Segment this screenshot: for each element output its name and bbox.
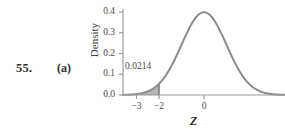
- chart-canvas: [78, 0, 285, 134]
- y-tick-label: 0.0: [89, 89, 115, 99]
- x-axis-title: Z: [190, 114, 197, 129]
- y-tick-label: 0.1: [89, 68, 115, 78]
- problem-part-label: (a): [57, 61, 71, 76]
- x-tick-label: −3: [127, 101, 147, 111]
- x-tick-label: −2: [149, 101, 169, 111]
- y-tick-label: 0.2: [89, 48, 115, 58]
- density-curve: [123, 12, 285, 95]
- shaded-area-value-label: 0.0214: [125, 61, 151, 71]
- y-tick-label: 0.3: [89, 27, 115, 37]
- problem-number: 55.: [16, 61, 32, 76]
- y-tick-label: 0.4: [89, 6, 115, 16]
- figure-root: 55. (a) Density Z 0.0214 0.00.10.20.30.4…: [0, 0, 285, 134]
- y-axis-title: Density: [88, 10, 100, 70]
- x-tick-label: 0: [194, 101, 214, 111]
- normal-density-chart: Density Z 0.0214 0.00.10.20.30.4 −3−20: [78, 0, 285, 134]
